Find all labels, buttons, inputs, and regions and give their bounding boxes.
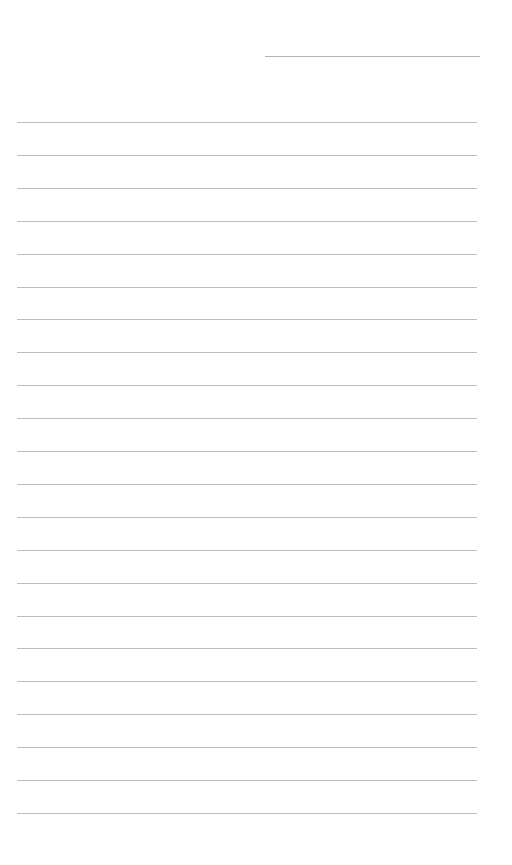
line-text[interactable]: [20, 269, 475, 289]
line-text[interactable]: [20, 400, 475, 420]
line-text[interactable]: [20, 301, 475, 321]
line-text[interactable]: [20, 696, 475, 716]
ruled-line: [17, 385, 477, 386]
ruled-line: [17, 681, 477, 682]
ruled-line: [17, 813, 477, 814]
line-text[interactable]: [20, 203, 475, 223]
line-text[interactable]: [20, 170, 475, 190]
lined-paper-page: [0, 0, 512, 865]
line-text[interactable]: [20, 565, 475, 585]
line-text[interactable]: [20, 598, 475, 618]
line-text[interactable]: [20, 795, 475, 815]
header-field-text[interactable]: [265, 40, 480, 54]
line-text[interactable]: [20, 762, 475, 782]
ruled-line: [17, 648, 477, 649]
line-text[interactable]: [20, 532, 475, 552]
line-text[interactable]: [20, 334, 475, 354]
line-text[interactable]: [20, 104, 475, 124]
ruled-line: [17, 780, 477, 781]
ruled-line: [17, 319, 477, 320]
ruled-line: [17, 122, 477, 123]
line-text[interactable]: [20, 433, 475, 453]
ruled-line: [17, 254, 477, 255]
line-text[interactable]: [20, 630, 475, 650]
ruled-line: [17, 221, 477, 222]
line-text[interactable]: [20, 499, 475, 519]
ruled-line: [17, 583, 477, 584]
ruled-line: [17, 188, 477, 189]
line-text[interactable]: [20, 729, 475, 749]
ruled-line: [17, 352, 477, 353]
ruled-line: [17, 484, 477, 485]
line-text[interactable]: [20, 236, 475, 256]
ruled-line: [17, 287, 477, 288]
ruled-line: [17, 747, 477, 748]
ruled-line: [17, 517, 477, 518]
ruled-line: [17, 714, 477, 715]
ruled-line: [17, 616, 477, 617]
line-text[interactable]: [20, 367, 475, 387]
ruled-line: [17, 451, 477, 452]
line-text[interactable]: [20, 466, 475, 486]
ruled-line: [17, 418, 477, 419]
line-text[interactable]: [20, 663, 475, 683]
header-field-line: [265, 56, 480, 57]
ruled-line: [17, 550, 477, 551]
line-text[interactable]: [20, 137, 475, 157]
ruled-line: [17, 155, 477, 156]
